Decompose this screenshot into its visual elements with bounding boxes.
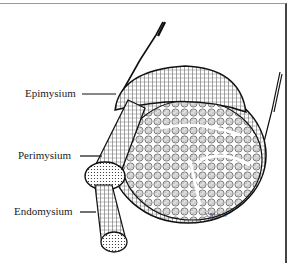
- muscle-cross-section-illustration: [0, 0, 292, 264]
- label-epimysium: Epimysium: [25, 87, 76, 99]
- artist-signature: S.Nfos 97: [205, 212, 228, 218]
- label-perimysium: Perimysium: [18, 149, 71, 161]
- label-endomysium: Endomysium: [14, 205, 73, 217]
